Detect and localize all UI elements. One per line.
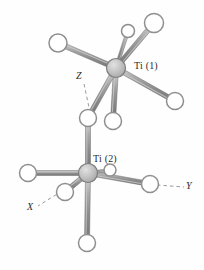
axis-label-x: X <box>27 201 33 212</box>
axis-vector-z <box>84 84 90 112</box>
ligand-atom <box>167 93 184 110</box>
structure-canvas <box>0 0 204 270</box>
axis-label-z: Z <box>76 70 82 81</box>
metal-center-ti1 <box>107 59 126 78</box>
axis-label-y: Y <box>186 180 192 191</box>
metal-center-ti2 <box>79 164 98 183</box>
ligand-atom <box>20 165 37 182</box>
ligand-atom <box>105 113 122 130</box>
label-ti1: Ti (1) <box>134 60 158 71</box>
bond-Ti2-L9 <box>85 178 91 238</box>
ligand-atom <box>57 184 74 201</box>
ligand-atom <box>104 164 116 176</box>
label-ti2: Ti (2) <box>93 153 117 164</box>
molecular-structure-figure: Ti (1) Ti (2) Z X Y <box>0 0 204 270</box>
axis-vector-y <box>157 185 184 187</box>
bond-highlight-3 <box>120 72 170 100</box>
bond-BR-Ti2 <box>86 123 91 168</box>
bond-highlight-5 <box>89 72 112 113</box>
bond-highlight-0 <box>63 44 112 65</box>
ligand-atom <box>122 25 135 38</box>
bond-Ti2-L6 <box>33 171 83 176</box>
bond-group <box>33 25 172 238</box>
ligand-atom <box>49 34 67 52</box>
ligand-atom <box>142 176 159 193</box>
ligand-atom <box>145 14 164 33</box>
ligand-atom <box>79 235 96 252</box>
atom-group <box>20 14 184 252</box>
bridging-atom <box>80 110 97 127</box>
